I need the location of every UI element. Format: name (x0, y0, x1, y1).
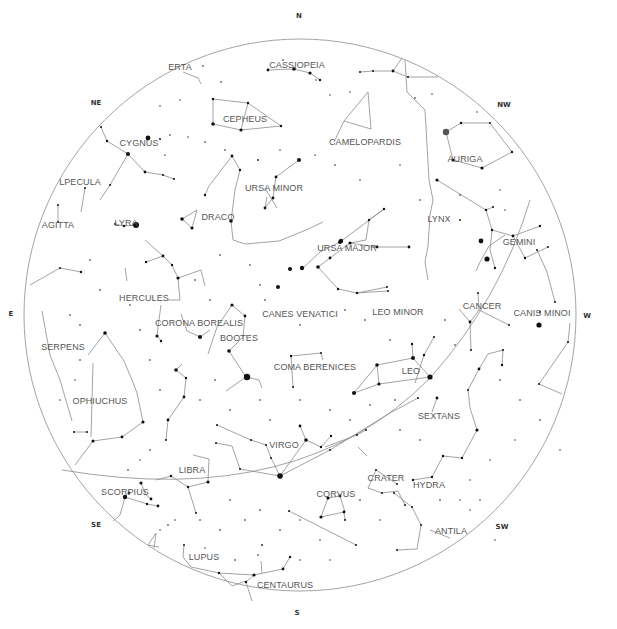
star[interactable] (411, 356, 415, 360)
star[interactable] (364, 319, 366, 321)
star[interactable] (174, 368, 178, 372)
star[interactable] (329, 449, 331, 451)
star[interactable] (539, 225, 541, 227)
star[interactable] (79, 359, 81, 361)
star[interactable] (489, 459, 490, 460)
star[interactable] (139, 459, 140, 460)
star[interactable] (155, 334, 158, 337)
star[interactable] (343, 511, 346, 514)
star[interactable] (149, 449, 151, 451)
star[interactable] (127, 469, 129, 471)
star[interactable] (567, 341, 569, 343)
star[interactable] (475, 428, 478, 431)
star[interactable] (470, 349, 472, 351)
constellation-label-lynx[interactable]: LYNX (427, 214, 450, 224)
star[interactable] (165, 439, 167, 441)
star[interactable] (276, 285, 280, 289)
star[interactable] (103, 331, 107, 335)
star[interactable] (315, 79, 316, 80)
star[interactable] (404, 504, 406, 506)
star[interactable] (501, 364, 503, 366)
constellation-label-hydra[interactable]: HYDRA (413, 480, 445, 490)
star[interactable] (230, 303, 233, 306)
star[interactable] (329, 409, 331, 411)
star[interactable] (492, 206, 494, 208)
star[interactable] (259, 399, 261, 401)
star[interactable] (469, 509, 470, 510)
constellation-label-vulpecula[interactable]: LPECULA (59, 177, 101, 187)
star[interactable] (536, 322, 541, 327)
constellation-label-libra[interactable]: LIBRA (179, 465, 206, 475)
star[interactable] (279, 149, 280, 150)
star[interactable] (157, 505, 160, 508)
star[interactable] (288, 267, 292, 271)
star[interactable] (257, 554, 259, 556)
star[interactable] (261, 544, 263, 546)
star[interactable] (275, 176, 278, 179)
star[interactable] (239, 128, 242, 131)
star[interactable] (314, 154, 315, 155)
constellation-label-auriga[interactable]: AURIGA (447, 154, 482, 164)
star[interactable] (167, 524, 169, 526)
star[interactable] (359, 71, 361, 73)
star[interactable] (439, 499, 441, 501)
star[interactable] (149, 359, 151, 361)
star[interactable] (377, 382, 380, 385)
star[interactable] (252, 573, 255, 576)
star[interactable] (329, 257, 332, 260)
star[interactable] (106, 140, 108, 142)
star[interactable] (299, 324, 301, 326)
star[interactable] (386, 286, 388, 288)
star[interactable] (320, 446, 322, 448)
star[interactable] (379, 519, 380, 520)
star[interactable] (491, 229, 493, 231)
star[interactable] (80, 271, 82, 273)
star[interactable] (290, 355, 292, 357)
star[interactable] (282, 568, 285, 571)
star[interactable] (329, 94, 330, 95)
star[interactable] (297, 158, 301, 162)
star[interactable] (244, 519, 246, 521)
star[interactable] (250, 439, 252, 441)
star[interactable] (368, 219, 370, 221)
star[interactable] (356, 434, 358, 436)
star[interactable] (272, 197, 275, 200)
star[interactable] (381, 492, 383, 494)
star[interactable] (202, 65, 204, 67)
star[interactable] (417, 397, 419, 399)
constellation-label-ursa-major[interactable]: URSA MAJOR (317, 243, 377, 253)
star[interactable] (485, 209, 487, 211)
star[interactable] (139, 481, 142, 484)
constellation-label-sextans[interactable]: SEXTANS (418, 411, 460, 421)
star[interactable] (160, 340, 162, 342)
star[interactable] (204, 547, 205, 548)
star[interactable] (219, 254, 221, 256)
star[interactable] (244, 315, 247, 318)
star[interactable] (356, 292, 358, 294)
star[interactable] (489, 122, 491, 124)
star[interactable] (198, 335, 202, 339)
star[interactable] (292, 386, 294, 388)
constellation-label-draco[interactable]: DRACO (201, 212, 234, 222)
star[interactable] (247, 102, 249, 104)
star[interactable] (289, 556, 291, 558)
star[interactable] (454, 344, 456, 346)
star[interactable] (183, 396, 186, 399)
star[interactable] (299, 519, 300, 520)
star[interactable] (414, 97, 416, 99)
star[interactable] (195, 512, 197, 514)
star[interactable] (344, 309, 346, 311)
star[interactable] (169, 134, 171, 136)
star[interactable] (499, 379, 501, 381)
star[interactable] (259, 509, 261, 511)
star[interactable] (319, 539, 320, 540)
star[interactable] (126, 152, 130, 156)
star[interactable] (109, 184, 111, 186)
constellation-label-scorpius[interactable]: SCORPIUS (101, 487, 149, 497)
star[interactable] (349, 419, 351, 421)
star[interactable] (239, 169, 241, 171)
star[interactable] (257, 159, 259, 161)
star[interactable] (57, 204, 59, 206)
star[interactable] (265, 444, 267, 446)
star[interactable] (411, 343, 413, 345)
